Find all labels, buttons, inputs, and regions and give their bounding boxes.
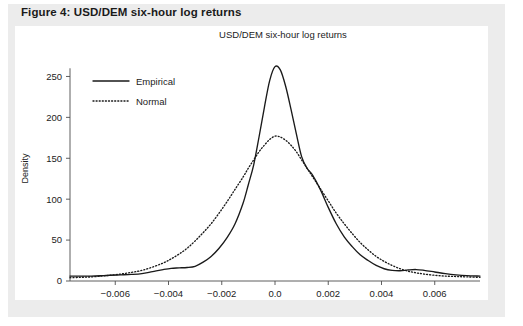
y-tick-label: 100	[46, 194, 62, 205]
curve-normal	[70, 136, 480, 278]
x-tick-label: 0.002	[316, 288, 340, 299]
y-tick-label: 0	[57, 275, 62, 286]
x-tick-label: −0.004	[154, 288, 183, 299]
y-tick-label: 50	[51, 234, 62, 245]
y-tick-label: 150	[46, 153, 62, 164]
y-tick-label: 200	[46, 112, 62, 123]
y-tick-label: 250	[46, 71, 62, 82]
legend-label-empirical: Empirical	[136, 76, 175, 87]
chart-panel: USD/DEM six-hour log returnsDensity05010…	[15, 26, 488, 300]
density-plot: USD/DEM six-hour log returnsDensity05010…	[15, 26, 488, 300]
curve-empirical	[70, 66, 480, 276]
figure-container: Figure 4: USD/DEM six-hour log returns U…	[0, 0, 523, 326]
figure-caption: Figure 4: USD/DEM six-hour log returns	[21, 6, 241, 18]
y-axis-label: Density	[20, 153, 30, 184]
legend-label-normal: Normal	[136, 96, 167, 107]
x-tick-label: 0.004	[370, 288, 394, 299]
x-tick-label: −0.006	[101, 288, 130, 299]
chart-title: USD/DEM six-hour log returns	[219, 29, 347, 40]
x-tick-label: 0.006	[423, 288, 447, 299]
x-tick-label: 0.0	[268, 288, 281, 299]
x-tick-label: −0.002	[207, 288, 236, 299]
